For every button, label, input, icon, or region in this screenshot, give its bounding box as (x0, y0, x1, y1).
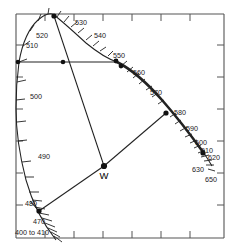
label-520: 520 (36, 31, 48, 40)
label-470: 470 (33, 217, 45, 226)
label-510: 510 (26, 41, 38, 50)
label-480: 480 (25, 199, 37, 208)
label-white-point: W (100, 170, 109, 181)
chromaticity-diagram-figure: 530 520 510 540 550 560 570 580 590 600 … (0, 0, 240, 252)
label-540: 540 (94, 31, 106, 40)
chromaticity-chart: 530 520 510 540 550 560 570 580 590 600 … (0, 0, 240, 252)
label-620: 620 (208, 153, 220, 162)
point-550b (119, 64, 124, 69)
label-490: 490 (38, 152, 50, 161)
label-650: 650 (205, 175, 217, 184)
label-580: 580 (174, 108, 186, 117)
label-590: 590 (186, 124, 198, 133)
label-630: 630 (192, 165, 204, 174)
label-530: 530 (75, 18, 87, 27)
label-550: 550 (113, 51, 125, 60)
point-mid-vertex (61, 60, 66, 65)
point-left-vertex (16, 60, 21, 65)
label-560: 560 (133, 68, 145, 77)
label-500: 500 (30, 92, 42, 101)
point-580 (163, 110, 168, 115)
point-520-apex (51, 13, 56, 18)
label-570: 570 (150, 88, 162, 97)
point-480 (36, 208, 41, 213)
point-white (101, 163, 107, 169)
label-400-to-410: 400 to 410 (15, 228, 49, 237)
